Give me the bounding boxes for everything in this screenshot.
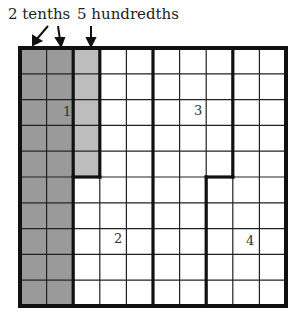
grid-cell	[153, 177, 180, 203]
grid-cell	[126, 74, 153, 100]
grid-cell	[73, 280, 100, 306]
grid-cell	[73, 48, 100, 74]
grid-cell	[73, 151, 100, 177]
grid-cell	[233, 254, 260, 280]
grid-cell	[259, 48, 286, 74]
grid-cell	[47, 125, 74, 151]
grid-cell	[20, 151, 47, 177]
grid-cell	[180, 177, 207, 203]
grid-cell	[153, 100, 180, 126]
grid-cell	[180, 203, 207, 229]
region-label-3: 3	[194, 103, 202, 118]
grid-cell	[180, 254, 207, 280]
grid-cell	[206, 125, 233, 151]
grid-cell	[20, 203, 47, 229]
grid-cell	[259, 74, 286, 100]
grid-cell	[100, 74, 127, 100]
grid-cell	[73, 177, 100, 203]
grid-cell	[233, 74, 260, 100]
grid-cell	[126, 203, 153, 229]
grid-cell	[259, 100, 286, 126]
grid-cell	[100, 125, 127, 151]
grid-cell	[20, 229, 47, 255]
grid-cell	[73, 203, 100, 229]
grid-cell	[100, 254, 127, 280]
grid-cell	[47, 177, 74, 203]
grid-cell	[206, 229, 233, 255]
grid-cell	[153, 74, 180, 100]
grid-cell	[153, 125, 180, 151]
grid-cell	[180, 125, 207, 151]
grid-cell	[233, 177, 260, 203]
grid-cell	[47, 151, 74, 177]
grid-cell	[47, 203, 74, 229]
grid-cell	[126, 100, 153, 126]
grid-cell	[126, 48, 153, 74]
grid-cell	[153, 151, 180, 177]
grid-cell	[180, 74, 207, 100]
grid-cell	[206, 280, 233, 306]
grid-cell	[180, 229, 207, 255]
grid-cell	[233, 151, 260, 177]
grid-cell	[73, 100, 100, 126]
grid-cell	[126, 125, 153, 151]
hundredths-grid-diagram: 1 2 3 4	[0, 0, 307, 323]
grid-cell	[206, 151, 233, 177]
grid-cell	[100, 48, 127, 74]
grid-cell	[233, 203, 260, 229]
grid-cell	[100, 177, 127, 203]
grid-cell	[73, 74, 100, 100]
grid-cell	[206, 254, 233, 280]
region-label-4: 4	[246, 233, 254, 248]
grid-cell	[47, 280, 74, 306]
grid-cell	[153, 254, 180, 280]
grid-cell	[20, 254, 47, 280]
grid-cell	[126, 229, 153, 255]
grid-cell	[259, 280, 286, 306]
grid-cell	[47, 254, 74, 280]
grid-cell	[73, 254, 100, 280]
grid-cell	[233, 100, 260, 126]
grid-cell	[126, 177, 153, 203]
grid-cell	[180, 48, 207, 74]
grid-cell	[153, 48, 180, 74]
grid-cell	[206, 100, 233, 126]
grid-cell	[206, 203, 233, 229]
arrow-icon-hundredths	[87, 26, 95, 46]
grid-cell	[20, 48, 47, 74]
grid-cell	[259, 229, 286, 255]
grid-cell	[126, 151, 153, 177]
grid-cell	[259, 254, 286, 280]
grid-cell	[20, 125, 47, 151]
grid-cell	[180, 151, 207, 177]
grid-cell	[259, 177, 286, 203]
region-label-1: 1	[63, 104, 71, 119]
grid-cell	[20, 280, 47, 306]
grid-cell	[126, 254, 153, 280]
grid-cell	[20, 100, 47, 126]
grid-cell	[100, 100, 127, 126]
grid-cell	[259, 151, 286, 177]
grid-cell	[100, 151, 127, 177]
grid-cell	[100, 280, 127, 306]
arrow-icon-tenths-2	[56, 26, 64, 46]
grid-cell	[20, 74, 47, 100]
grid-cell	[73, 125, 100, 151]
grid-cell	[233, 125, 260, 151]
grid-cell	[206, 48, 233, 74]
grid-cell	[233, 48, 260, 74]
grid-cell	[126, 280, 153, 306]
grid-cell	[153, 229, 180, 255]
grid-cell	[47, 229, 74, 255]
arrow-icon-tenths-1	[33, 26, 48, 45]
grid-cell	[206, 74, 233, 100]
grid-cell	[233, 280, 260, 306]
grid-cell	[47, 48, 74, 74]
grid-cell	[153, 280, 180, 306]
grid-cell	[259, 203, 286, 229]
grid-cell	[47, 74, 74, 100]
grid-cell	[259, 125, 286, 151]
grid-cell	[180, 280, 207, 306]
grid-cell	[153, 203, 180, 229]
grid-cell	[206, 177, 233, 203]
